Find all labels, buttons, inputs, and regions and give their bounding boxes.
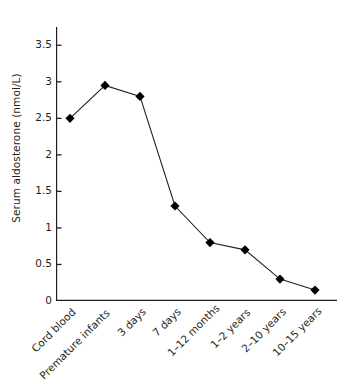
x-tick-label: 3 days: [115, 306, 148, 339]
x-tick-label: 7 days: [150, 306, 183, 339]
x-tick-label: Premature infants: [37, 307, 112, 382]
x-axis-tick-labels: Cord bloodPremature infants3 days7 days1…: [0, 0, 346, 384]
chart-figure: Serum aldosterone (nmol/L) 00.511.522.53…: [0, 0, 346, 384]
